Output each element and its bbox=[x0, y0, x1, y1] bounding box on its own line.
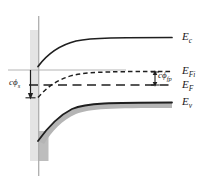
label-fermi-level: EF bbox=[182, 79, 193, 93]
energy-band-diagram: Ec EFi EF Ev cϕs cϕfp bbox=[0, 0, 210, 184]
band-diagram-canvas bbox=[0, 0, 210, 184]
valence-band-fill bbox=[38, 103, 172, 145]
conduction-band-line bbox=[38, 38, 172, 67]
label-ec-symbol: E bbox=[182, 30, 189, 42]
label-phifp-sub: fp bbox=[167, 75, 172, 82]
label-valence-band: Ev bbox=[182, 96, 192, 110]
label-efi-symbol: E bbox=[182, 64, 189, 76]
label-phifp-symbol: cϕ bbox=[158, 70, 167, 80]
label-phis-symbol: cϕ bbox=[9, 77, 18, 87]
label-ef-sub: F bbox=[189, 84, 194, 93]
label-conduction-band: Ec bbox=[182, 31, 192, 45]
label-bulk-potential: cϕfp bbox=[158, 71, 172, 82]
label-surface-potential: cϕs bbox=[9, 78, 20, 89]
label-phis-sub: s bbox=[18, 82, 21, 89]
label-ev-symbol: E bbox=[182, 95, 189, 107]
label-ev-sub: v bbox=[189, 101, 192, 110]
label-efi-sub: Fi bbox=[189, 70, 196, 79]
label-intrinsic-fermi: EFi bbox=[182, 65, 195, 79]
label-ec-sub: c bbox=[189, 36, 192, 45]
label-ef-symbol: E bbox=[182, 78, 189, 90]
